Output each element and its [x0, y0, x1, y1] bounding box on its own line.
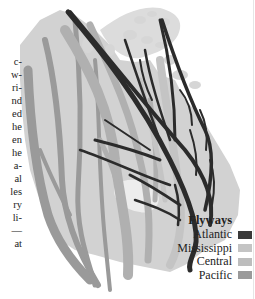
text-line: les	[0, 185, 22, 198]
legend-title: Flyways	[166, 212, 254, 228]
legend-label: Pacific	[199, 269, 232, 282]
legend-swatch-mississippi	[238, 244, 252, 252]
text-line: a-	[0, 159, 22, 172]
legend-swatch-central	[238, 258, 252, 266]
text-line: he	[0, 146, 22, 159]
article-text-column: c- w- ri- nd ed he en he a- al les ry li…	[0, 55, 22, 250]
text-line: en	[0, 133, 22, 146]
legend-label: Mississippi	[177, 242, 232, 255]
text-line: ry	[0, 198, 22, 211]
text-line: li-	[0, 211, 22, 224]
text-line: c-	[0, 55, 22, 68]
text-line: nd	[0, 94, 22, 107]
legend-item-mississippi: Mississippi	[170, 242, 254, 256]
text-line: at	[0, 237, 22, 250]
flyways-legend: Flyways Atlantic Mississippi Central Pac…	[170, 212, 254, 282]
legend-label: Atlantic	[193, 228, 232, 241]
legend-swatch-atlantic	[238, 231, 252, 239]
legend-item-atlantic: Atlantic	[170, 228, 254, 242]
text-line: w-	[0, 68, 22, 81]
legend-item-central: Central	[170, 255, 254, 269]
text-line: ed	[0, 107, 22, 120]
text-line: ri-	[0, 81, 22, 94]
text-line: al	[0, 172, 22, 185]
legend-item-pacific: Pacific	[170, 269, 254, 283]
text-line: he	[0, 120, 22, 133]
legend-label: Central	[197, 255, 232, 268]
legend-swatch-pacific	[238, 271, 252, 279]
text-line: —	[0, 224, 22, 237]
